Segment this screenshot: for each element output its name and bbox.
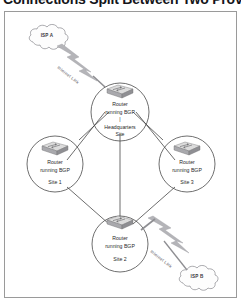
- network-diagram: ISP A Internet Link Router running BGP |…: [5, 12, 236, 297]
- cloud-isp-b-label: ISP B: [191, 274, 204, 279]
- router-icon: [174, 142, 200, 155]
- node-headquarters-line2: running BGP: [105, 109, 135, 115]
- node-site-1: Router running BGP Site 1: [27, 136, 83, 192]
- node-site-1-line2: running BGP: [40, 167, 70, 173]
- page-title: Connections Split Between Two Providers: [3, 0, 241, 7]
- node-site-1-site: Site 1: [48, 179, 61, 185]
- internet-link-bottom-label: Internet Link: [149, 249, 173, 270]
- router-icon: [107, 216, 133, 229]
- node-site-2: Router running BGP Site 2: [92, 216, 148, 272]
- node-site-2-line2: running BGP: [105, 243, 135, 249]
- router-icon: [42, 142, 68, 155]
- node-site-3: Router running BGP Site 3: [159, 136, 215, 192]
- node-headquarters-site2: Site: [116, 131, 125, 137]
- node-site-1-line1: Router: [47, 159, 63, 165]
- figure-frame: ISP A Internet Link Router running BGP |…: [4, 11, 237, 298]
- cloud-isp-b: ISP B: [179, 265, 218, 290]
- node-headquarters: Router running BGP | Headquarters Site: [91, 83, 149, 141]
- node-headquarters-divider: |: [119, 116, 120, 122]
- node-site-3-line1: Router: [179, 159, 195, 165]
- node-site-3-line2: running BGP: [172, 167, 202, 173]
- link-site1-site2: [67, 187, 109, 224]
- internet-link-top: Internet Link: [56, 44, 105, 87]
- node-site-2-site: Site 2: [113, 256, 126, 262]
- cloud-isp-a-label: ISP A: [41, 33, 54, 38]
- node-headquarters-line1: Router: [112, 101, 128, 107]
- node-site-3-site: Site 3: [180, 179, 193, 185]
- link-site3-hq-alt: [133, 112, 163, 140]
- node-site-2-line1: Router: [112, 235, 128, 241]
- node-headquarters-site: Headquarters: [104, 124, 136, 130]
- internet-link-top-label: Internet Link: [56, 65, 80, 86]
- router-icon: [107, 85, 133, 98]
- page-title-crop: Connections Split Between Two Providers: [0, 0, 241, 9]
